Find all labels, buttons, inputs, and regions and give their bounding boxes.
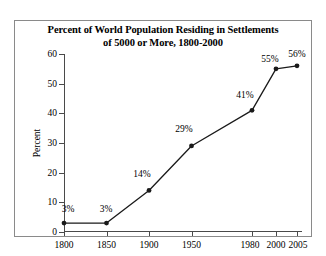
- x-tick-label-1850: 1850: [97, 240, 116, 250]
- point-label-1800: 3%: [62, 204, 75, 214]
- x-tick-1800: [64, 232, 65, 236]
- x-tick-2000: [276, 232, 277, 236]
- x-tick-label-1950: 1950: [182, 240, 201, 250]
- x-tick-label-1800: 1800: [55, 240, 74, 250]
- chart-figure-frame: Percent of World Population Residing in …: [14, 20, 312, 237]
- point-label-1900: 14%: [133, 169, 150, 179]
- point-label-1980: 41%: [236, 90, 253, 100]
- data-point-1900: [147, 188, 152, 193]
- y-tick-label-50: 50: [48, 79, 58, 89]
- point-label-2000: 55%: [261, 54, 278, 64]
- data-point-1800: [62, 221, 67, 226]
- point-label-1850: 3%: [100, 204, 113, 214]
- y-tick-label-60: 60: [48, 49, 58, 59]
- data-point-1950: [189, 144, 194, 149]
- data-point-2005: [295, 63, 300, 68]
- y-tick-label-40: 40: [48, 108, 58, 118]
- data-point-2000: [274, 66, 279, 71]
- data-point-1980: [250, 108, 255, 113]
- y-tick-label-10: 10: [48, 197, 58, 207]
- x-tick-1980: [252, 232, 253, 236]
- y-tick-label-30: 30: [48, 138, 58, 148]
- chart-title-line-1: Percent of World Population Residing in …: [15, 24, 311, 37]
- chart-title: Percent of World Population Residing in …: [15, 24, 311, 49]
- y-tick-label-20: 20: [48, 168, 58, 178]
- x-tick-label-1980: 1980: [241, 240, 260, 250]
- chart-title-line-2: of 5000 or More, 1800-2000: [15, 37, 311, 50]
- series-polyline: [64, 66, 297, 223]
- data-point-1850: [104, 221, 109, 226]
- x-tick-label-2005: 2005: [289, 240, 308, 250]
- y-tick-label-0: 0: [52, 227, 57, 237]
- point-label-2005: 56%: [288, 49, 305, 59]
- y-axis-title: Percent: [32, 129, 42, 158]
- x-tick-1950: [192, 232, 193, 236]
- x-tick-1900: [149, 232, 150, 236]
- plot-area: Percent 0 10 20 30 40 50 60 1800 1850 19…: [64, 54, 304, 232]
- x-tick-1850: [107, 232, 108, 236]
- x-tick-label-1900: 1900: [140, 240, 159, 250]
- x-tick-label-2000: 2000: [267, 240, 286, 250]
- series-markers: [62, 63, 300, 225]
- x-tick-2005: [297, 232, 298, 236]
- point-label-1950: 29%: [175, 124, 192, 134]
